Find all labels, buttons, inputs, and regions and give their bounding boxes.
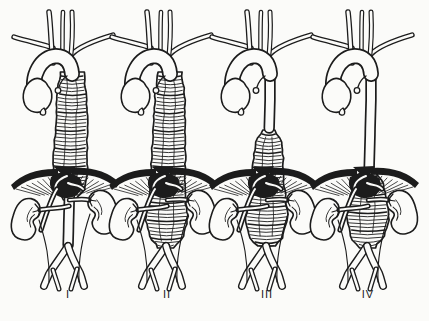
panel-label-1: I bbox=[66, 288, 70, 300]
iliac-arteries bbox=[343, 246, 383, 289]
panel-label-4: IV bbox=[362, 288, 374, 300]
iliac-arteries bbox=[142, 246, 182, 289]
kidney-right bbox=[385, 187, 421, 236]
aneurysm-segment bbox=[145, 72, 188, 248]
kidney-left bbox=[8, 195, 43, 242]
crawford-classification-figure: I II III IV bbox=[0, 0, 429, 321]
panel-type-IV bbox=[307, 12, 421, 289]
panel-type-III bbox=[206, 12, 320, 289]
panel-label-2: II bbox=[163, 288, 171, 300]
panel-label-3: III bbox=[261, 288, 273, 300]
aortic-arch-and-heart bbox=[322, 56, 371, 115]
normal-aorta bbox=[369, 72, 371, 170]
normal-aorta bbox=[68, 196, 69, 245]
iliac-arteries bbox=[44, 246, 84, 289]
iliac-arteries bbox=[242, 246, 282, 289]
panel-type-I bbox=[8, 12, 122, 289]
panel-type-II bbox=[106, 12, 220, 289]
illustration-canvas bbox=[0, 0, 429, 321]
aortic-arch-and-heart bbox=[221, 56, 270, 115]
